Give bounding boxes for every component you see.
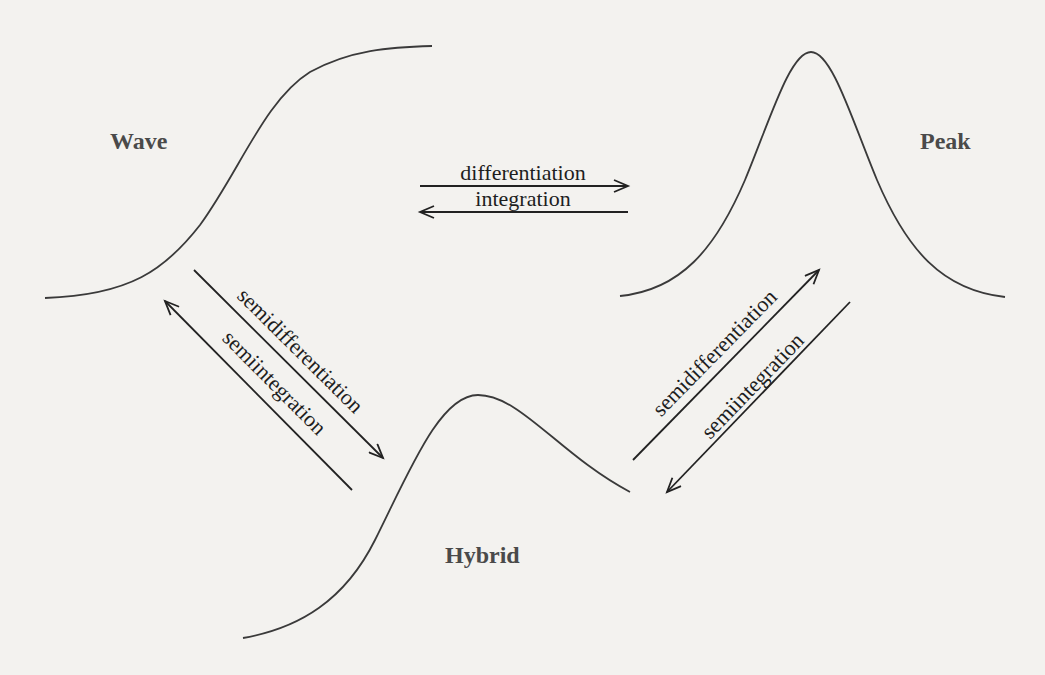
differentiation-label: differentiation bbox=[460, 160, 585, 185]
wave-curve bbox=[45, 46, 432, 298]
semiintegration-left-label: semiintegration bbox=[218, 325, 332, 440]
down-right-arrow-icon bbox=[194, 270, 383, 458]
up-left-arrow-icon bbox=[165, 301, 352, 490]
hybrid-node: Hybrid bbox=[243, 395, 630, 638]
integration-edge: integration bbox=[420, 186, 628, 212]
diagram-canvas: Wave Peak Hybrid differentiation integra… bbox=[0, 0, 1045, 675]
differentiation-edge: differentiation bbox=[420, 160, 628, 186]
peak-curve bbox=[620, 52, 1005, 297]
hybrid-curve bbox=[243, 395, 630, 638]
wave-node: Wave bbox=[45, 46, 432, 298]
peak-label: Peak bbox=[920, 128, 971, 154]
integration-label: integration bbox=[475, 186, 570, 211]
wave-label: Wave bbox=[110, 128, 168, 154]
semidifferentiation-left-edge: semidifferentiation bbox=[194, 270, 383, 458]
semiintegration-left-edge: semiintegration bbox=[165, 301, 352, 490]
hybrid-label: Hybrid bbox=[445, 542, 520, 568]
peak-node: Peak bbox=[620, 52, 1005, 297]
semidifferentiation-right-label: semidifferentiation bbox=[647, 284, 782, 421]
